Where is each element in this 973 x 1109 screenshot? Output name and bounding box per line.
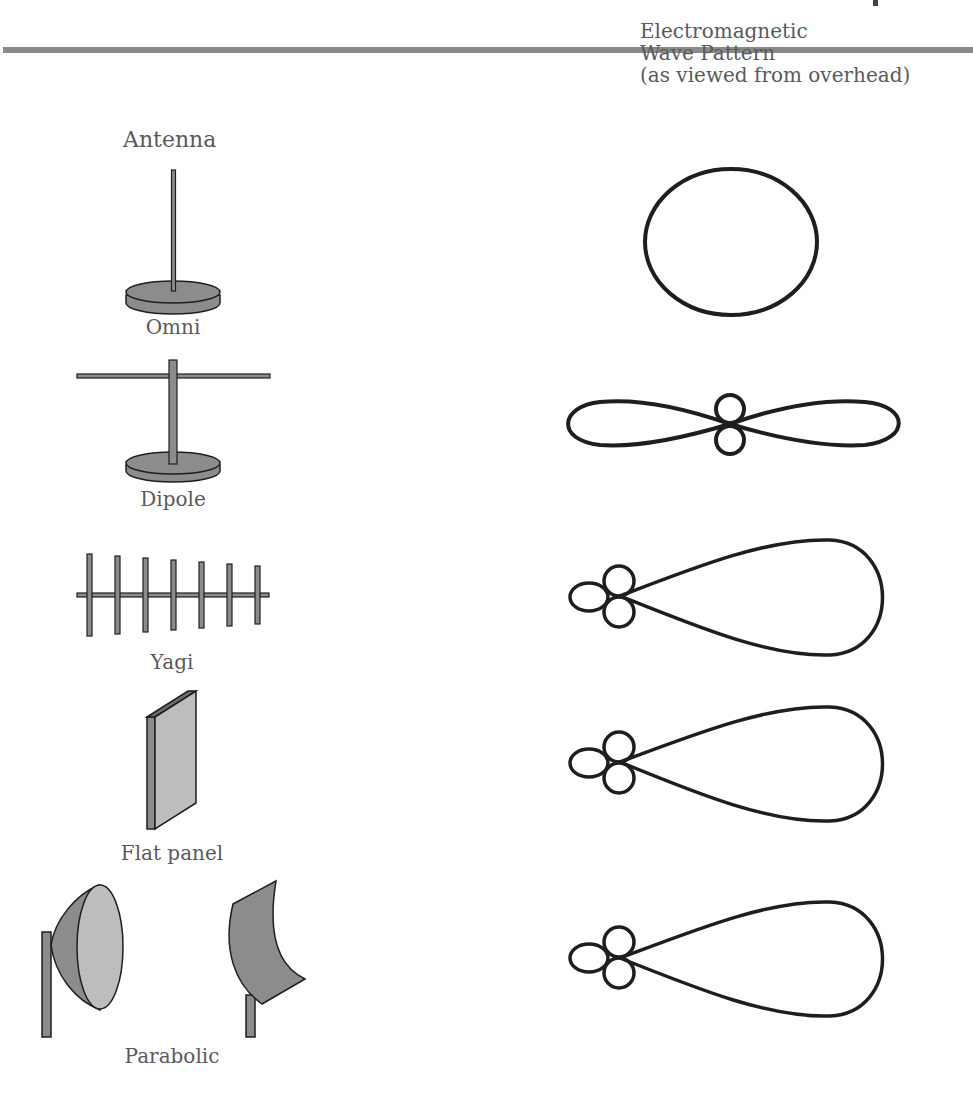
yagi-label: Yagi [151,651,194,674]
omni-pattern-circle [645,169,817,315]
yagi-antenna-icon [77,554,269,636]
flat-panel-pattern-directional [570,707,883,821]
yagi-pattern-directional [570,540,883,655]
parabolic-pattern-directional [570,902,883,1016]
parabolic-label: Parabolic [125,1045,220,1068]
parabolic-grid-antenna-icon [229,881,305,1037]
dipole-pattern-figure-eight [568,395,899,454]
dipole-antenna-icon [77,360,270,482]
flat-panel-label: Flat panel [121,842,223,865]
antenna-diagram [0,0,973,1109]
omni-antenna-icon [126,170,220,314]
parabolic-dish-antenna-icon [42,885,123,1037]
omni-label: Omni [146,316,201,339]
dipole-label: Dipole [140,488,206,511]
flat-panel-antenna-icon [147,691,196,829]
